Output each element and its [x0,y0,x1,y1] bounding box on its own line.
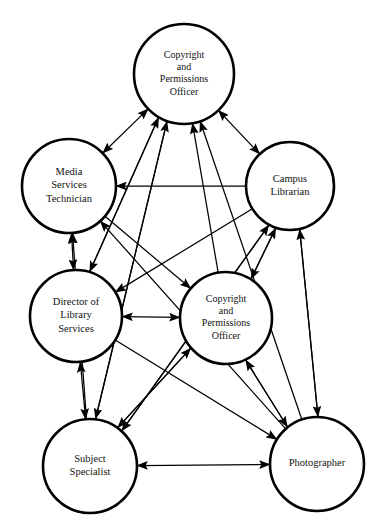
node-label-copyright_center: Officer [212,330,241,341]
network-diagram: CopyrightandPermissionsOfficerMediaServi… [0,0,377,527]
node-label-copyright_center: Permissions [202,317,250,328]
node-label-campus_librarian: Campus [273,173,307,184]
node-media_services[interactable]: MediaServicesTechnician [22,139,116,233]
node-label-photographer: Photographer [289,457,346,468]
node-label-copyright_top: Copyright [164,49,205,60]
node-label-copyright_top: and [177,61,191,72]
node-copyright_top[interactable]: CopyrightandPermissionsOfficer [134,24,234,124]
edge-photographer-to-campus_librarian [300,229,318,416]
edge-media_services-to-copyright_top [103,109,149,153]
node-photographer[interactable]: Photographer [270,417,364,511]
edge-copyright_center-to-photographer [246,360,288,427]
node-label-director_library: Director of [53,296,100,307]
node-label-copyright_center: and [219,305,233,316]
node-label-copyright_top: Officer [170,86,199,97]
node-campus_librarian[interactable]: CampusLibrarian [246,142,334,230]
node-label-director_library: Library [60,309,92,320]
node-subject_specialist[interactable]: SubjectSpecialist [43,419,137,513]
node-label-copyright_top: Permissions [160,73,208,84]
node-label-campus_librarian: Librarian [270,186,310,197]
edge-copyright_center-to-copyright_top [192,123,218,272]
edge-copyright_center-to-campus_librarian [251,228,276,279]
node-label-media_services: Technician [46,193,93,204]
node-label-media_services: Media [56,166,83,177]
node-label-copyright_center: Copyright [206,293,247,304]
edge-copyright_top-to-campus_librarian [218,110,259,154]
node-director_library[interactable]: Director ofLibraryServices [30,270,122,362]
edge-copyright_center-to-subject_specialist [118,348,191,428]
edge-media_services-to-copyright_center [105,216,191,288]
node-label-media_services: Services [51,179,87,190]
node-label-subject_specialist: Subject [74,453,106,464]
node-label-director_library: Services [58,323,94,334]
node-label-subject_specialist: Specialist [70,466,111,477]
network-graph-canvas: CopyrightandPermissionsOfficerMediaServi… [0,0,377,527]
node-copyright_center[interactable]: CopyrightandPermissionsOfficer [180,272,272,364]
edge-subject_specialist-to-photographer [137,464,270,465]
edge-director_library-to-copyright_center [122,317,180,318]
